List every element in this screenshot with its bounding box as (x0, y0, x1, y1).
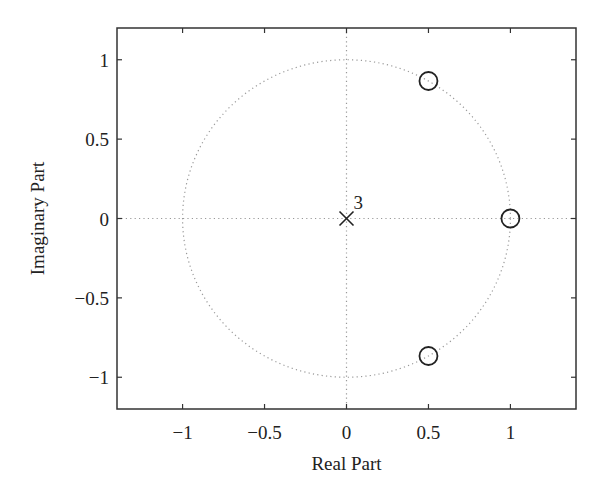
multiplicity-annotation: 3 (354, 192, 364, 213)
x-tick-label: −1 (172, 422, 192, 443)
y-tick-label: 0 (100, 209, 110, 230)
x-tick-label: 0.5 (417, 422, 441, 443)
axis-ticks: −1−0.500.51−1−0.500.51 (75, 28, 576, 443)
y-axis-label: Imaginary Part (27, 161, 48, 275)
pole-zero-chart: −1−0.500.51−1−0.500.51 3 Real Part Imagi… (0, 0, 599, 497)
x-tick-label: −0.5 (247, 422, 281, 443)
x-tick-label: 1 (506, 422, 516, 443)
y-tick-label: −0.5 (75, 288, 109, 309)
y-tick-label: −1 (89, 367, 109, 388)
x-tick-label: 0 (342, 422, 352, 443)
y-tick-label: 0.5 (85, 129, 109, 150)
y-tick-label: 1 (100, 50, 110, 71)
x-axis-label: Real Part (311, 453, 382, 474)
